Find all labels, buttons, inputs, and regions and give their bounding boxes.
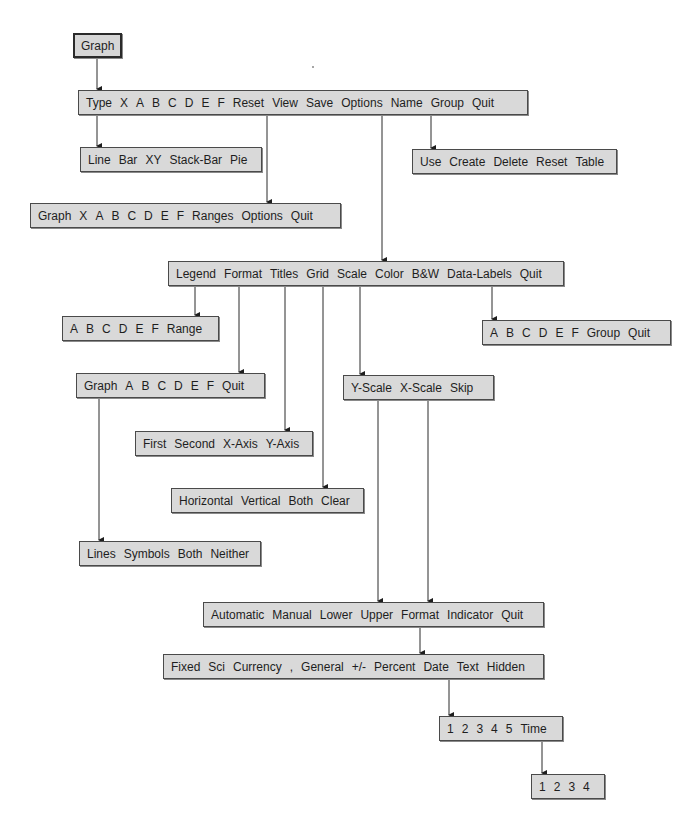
menu-item-a[interactable]: A — [136, 96, 144, 110]
menu-item-c[interactable]: C — [127, 209, 136, 223]
menu-item-automatic[interactable]: Automatic — [211, 608, 264, 622]
menu-item-y-scale[interactable]: Y-Scale — [351, 381, 392, 395]
menu-item-plus-minus[interactable]: +/- — [352, 660, 366, 674]
menu-item-lower[interactable]: Lower — [320, 608, 353, 622]
menu-item-4[interactable]: 4 — [583, 780, 590, 794]
menu-item-graph[interactable]: Graph — [81, 39, 114, 53]
menu-item-graph[interactable]: Graph — [84, 379, 117, 393]
menu-item-neither[interactable]: Neither — [210, 547, 249, 561]
menu-item-1[interactable]: 1 — [447, 722, 454, 736]
menu-item-time[interactable]: Time — [520, 722, 546, 736]
menu-item-line[interactable]: Line — [88, 153, 111, 167]
menu-item-b[interactable]: B — [152, 96, 160, 110]
menu-item-grid[interactable]: Grid — [306, 267, 329, 281]
menu-item-both[interactable]: Both — [288, 494, 313, 508]
menu-item-delete[interactable]: Delete — [493, 155, 528, 169]
menu-item-d[interactable]: D — [185, 96, 194, 110]
menu-item-3[interactable]: 3 — [476, 722, 483, 736]
menu-item-quit[interactable]: Quit — [472, 96, 494, 110]
menu-item-table[interactable]: Table — [575, 155, 604, 169]
menu-item-c[interactable]: C — [522, 326, 531, 340]
menu-item-d[interactable]: D — [174, 379, 183, 393]
menu-item-reset[interactable]: Reset — [536, 155, 567, 169]
menu-item-name[interactable]: Name — [391, 96, 423, 110]
menu-item-f[interactable]: F — [571, 326, 578, 340]
menu-item-quit[interactable]: Quit — [520, 267, 542, 281]
menu-item-d[interactable]: D — [539, 326, 548, 340]
menu-item-view[interactable]: View — [272, 96, 298, 110]
menu-item-a[interactable]: A — [125, 379, 133, 393]
menu-item-color[interactable]: Color — [375, 267, 404, 281]
menu-item-upper[interactable]: Upper — [360, 608, 393, 622]
menu-item-fixed[interactable]: Fixed — [171, 660, 200, 674]
menu-item-hidden[interactable]: Hidden — [487, 660, 525, 674]
menu-item-vertical[interactable]: Vertical — [241, 494, 280, 508]
menu-item-x[interactable]: X — [120, 96, 128, 110]
menu-item-range[interactable]: Range — [167, 322, 202, 336]
menu-item-x[interactable]: X — [79, 209, 87, 223]
menu-item-b[interactable]: B — [141, 379, 149, 393]
menu-item-scale[interactable]: Scale — [337, 267, 367, 281]
menu-item-y-axis[interactable]: Y-Axis — [266, 437, 300, 451]
menu-item-ranges[interactable]: Ranges — [192, 209, 233, 223]
menu-item-xy[interactable]: XY — [145, 153, 161, 167]
menu-item-format[interactable]: Format — [401, 608, 439, 622]
menu-item-symbols[interactable]: Symbols — [124, 547, 170, 561]
menu-item-group[interactable]: Group — [431, 96, 464, 110]
menu-item-quit[interactable]: Quit — [291, 209, 313, 223]
menu-item-skip[interactable]: Skip — [450, 381, 473, 395]
menu-item-f[interactable]: F — [207, 379, 214, 393]
menu-item-stack-bar[interactable]: Stack-Bar — [169, 153, 222, 167]
menu-item-quit[interactable]: Quit — [222, 379, 244, 393]
menu-item-quit[interactable]: Quit — [628, 326, 650, 340]
menu-item-1[interactable]: 1 — [539, 780, 546, 794]
menu-item-c[interactable]: C — [157, 379, 166, 393]
menu-item-x-scale[interactable]: X-Scale — [400, 381, 442, 395]
menu-item-horizontal[interactable]: Horizontal — [179, 494, 233, 508]
menu-item-a[interactable]: A — [95, 209, 103, 223]
menu-item-a[interactable]: A — [70, 322, 78, 336]
menu-item-c[interactable]: C — [168, 96, 177, 110]
menu-item-comma[interactable]: , — [290, 660, 293, 674]
menu-item-group[interactable]: Group — [587, 326, 620, 340]
menu-item-d[interactable]: D — [144, 209, 153, 223]
menu-item-e[interactable]: E — [135, 322, 143, 336]
menu-item-percent[interactable]: Percent — [374, 660, 415, 674]
menu-item-indicator[interactable]: Indicator — [447, 608, 493, 622]
menu-item-reset[interactable]: Reset — [233, 96, 264, 110]
menu-item-4[interactable]: 4 — [491, 722, 498, 736]
menu-item-create[interactable]: Create — [449, 155, 485, 169]
menu-item-quit[interactable]: Quit — [501, 608, 523, 622]
menu-item-graph[interactable]: Graph — [38, 209, 71, 223]
menu-item-b[interactable]: B — [506, 326, 514, 340]
menu-item-type[interactable]: Type — [86, 96, 112, 110]
menu-item-2[interactable]: 2 — [554, 780, 561, 794]
menu-item-pie[interactable]: Pie — [230, 153, 247, 167]
menu-item-titles[interactable]: Titles — [270, 267, 298, 281]
menu-item-options[interactable]: Options — [341, 96, 382, 110]
menu-item-e[interactable]: E — [161, 209, 169, 223]
menu-item-both[interactable]: Both — [178, 547, 203, 561]
menu-item-bw[interactable]: B&W — [412, 267, 439, 281]
menu-item-e[interactable]: E — [555, 326, 563, 340]
menu-item-e[interactable]: E — [201, 96, 209, 110]
menu-item-legend[interactable]: Legend — [176, 267, 216, 281]
menu-item-general[interactable]: General — [301, 660, 344, 674]
menu-item-options[interactable]: Options — [241, 209, 282, 223]
menu-item-format[interactable]: Format — [224, 267, 262, 281]
menu-item-5[interactable]: 5 — [506, 722, 513, 736]
menu-item-c[interactable]: C — [102, 322, 111, 336]
menu-item-currency[interactable]: Currency — [233, 660, 282, 674]
menu-item-sci[interactable]: Sci — [208, 660, 225, 674]
menu-item-2[interactable]: 2 — [462, 722, 469, 736]
menu-item-3[interactable]: 3 — [568, 780, 575, 794]
menu-item-f[interactable]: F — [151, 322, 158, 336]
menu-item-save[interactable]: Save — [306, 96, 333, 110]
menu-item-b[interactable]: B — [86, 322, 94, 336]
menu-item-x-axis[interactable]: X-Axis — [223, 437, 258, 451]
menu-item-bar[interactable]: Bar — [119, 153, 138, 167]
menu-item-first[interactable]: First — [143, 437, 166, 451]
menu-item-clear[interactable]: Clear — [321, 494, 350, 508]
menu-item-e[interactable]: E — [191, 379, 199, 393]
menu-item-text[interactable]: Text — [457, 660, 479, 674]
